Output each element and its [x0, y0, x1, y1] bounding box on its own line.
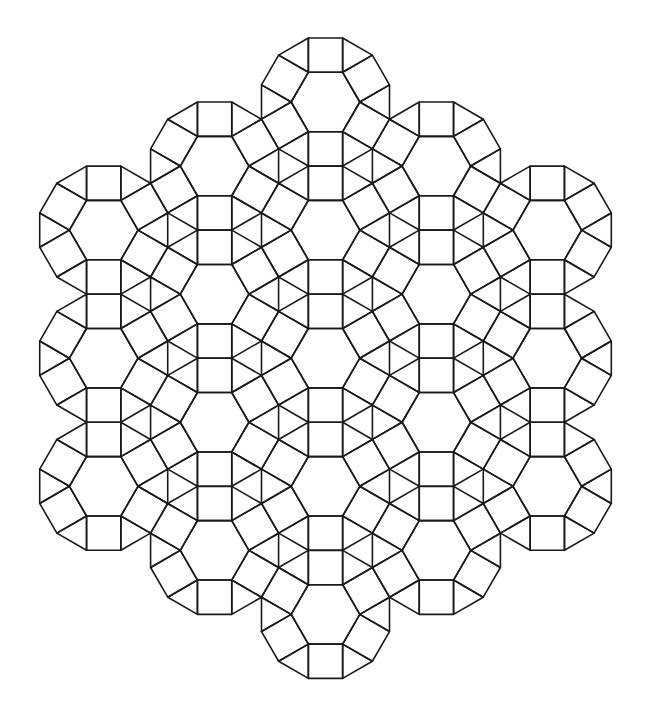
triangle-tile: [343, 422, 373, 456]
square-tile: [151, 422, 198, 469]
triangle-tile: [249, 149, 279, 183]
triangle-tile: [390, 580, 420, 614]
triangle-tile: [454, 580, 484, 614]
square-tile: [121, 311, 168, 358]
triangle-tile: [564, 166, 594, 200]
triangle-tile: [564, 260, 594, 294]
square-tile: [40, 183, 87, 230]
hexagon-tile: [291, 329, 360, 388]
square-tile: [87, 388, 121, 422]
square-tile: [530, 422, 564, 456]
square-tile: [232, 294, 279, 341]
triangle-tile: [582, 469, 612, 503]
triangle-tile: [360, 597, 390, 631]
square-tile: [454, 119, 501, 166]
square-tile: [564, 439, 611, 486]
square-tile: [262, 55, 309, 102]
triangle-tile: [500, 422, 530, 456]
triangle-tile: [57, 516, 87, 550]
triangle-tile: [121, 166, 151, 200]
hexagon-tile: [69, 457, 138, 516]
square-tile: [308, 422, 342, 456]
triangle-tile: [279, 38, 309, 72]
square-tile: [232, 166, 279, 213]
triangle-tile: [372, 533, 402, 567]
triangle-tile: [262, 469, 292, 503]
triangle-tile: [279, 550, 309, 584]
square-tile: [262, 102, 309, 149]
triangle-tile: [390, 102, 420, 136]
square-tile: [308, 260, 342, 294]
square-tile: [530, 294, 564, 328]
triangle-tile: [372, 277, 402, 311]
triangle-tile: [168, 102, 198, 136]
triangle-tile: [582, 341, 612, 375]
triangle-tile: [279, 388, 309, 422]
square-tile: [197, 230, 231, 264]
square-tile: [419, 196, 453, 230]
triangle-tile: [121, 516, 151, 550]
triangle-tile: [500, 294, 530, 328]
triangle-tile: [232, 358, 262, 392]
square-tile: [343, 311, 390, 358]
triangle-tile: [372, 149, 402, 183]
hexagon-tile: [180, 393, 249, 452]
square-tile: [419, 230, 453, 264]
square-tile: [454, 550, 501, 597]
hexagon-tile: [291, 457, 360, 516]
square-tiles: [40, 38, 612, 678]
square-tile: [372, 375, 419, 422]
triangle-tile: [343, 550, 373, 584]
square-tile: [87, 260, 121, 294]
square-tile: [197, 324, 231, 358]
triangle-tile: [454, 102, 484, 136]
square-tile: [308, 388, 342, 422]
square-tile: [343, 439, 390, 486]
triangle-tile: [232, 324, 262, 358]
square-tile: [87, 294, 121, 328]
square-tile: [419, 324, 453, 358]
triangle-tile: [500, 388, 530, 422]
square-tile: [564, 486, 611, 533]
square-tile: [40, 486, 87, 533]
triangle-tile: [471, 533, 501, 567]
square-tile: [197, 452, 231, 486]
square-tile: [530, 166, 564, 200]
square-tile: [232, 504, 279, 551]
square-tile: [483, 311, 530, 358]
triangle-tile: [390, 324, 420, 358]
square-tile: [262, 358, 309, 405]
square-tile: [483, 183, 530, 230]
square-tile: [483, 439, 530, 486]
triangle-tile: [232, 196, 262, 230]
triangle-tile: [262, 213, 292, 247]
triangle-tile: [390, 196, 420, 230]
square-tile: [232, 550, 279, 597]
square-tile: [121, 183, 168, 230]
hexagon-tile: [180, 521, 249, 580]
triangle-tile: [232, 486, 262, 520]
square-tile: [343, 358, 390, 405]
triangle-tile: [360, 85, 390, 119]
square-tile: [372, 119, 419, 166]
triangle-tile: [151, 533, 181, 567]
triangle-tile: [500, 516, 530, 550]
square-tile: [454, 375, 501, 422]
hexagon-tile: [513, 457, 582, 516]
triangle-tile: [390, 452, 420, 486]
triangle-tile: [279, 260, 309, 294]
square-tile: [40, 439, 87, 486]
triangle-tiles: [40, 38, 612, 678]
triangle-tile: [454, 486, 484, 520]
triangle-tile: [57, 260, 87, 294]
square-tile: [308, 38, 342, 72]
square-tile: [121, 439, 168, 486]
square-tile: [197, 102, 231, 136]
square-tile: [151, 294, 198, 341]
hexagon-tile: [291, 72, 360, 131]
square-tile: [372, 504, 419, 551]
triangle-tile: [500, 260, 530, 294]
triangle-tile: [454, 196, 484, 230]
square-tile: [40, 311, 87, 358]
triangle-tile: [279, 644, 309, 678]
